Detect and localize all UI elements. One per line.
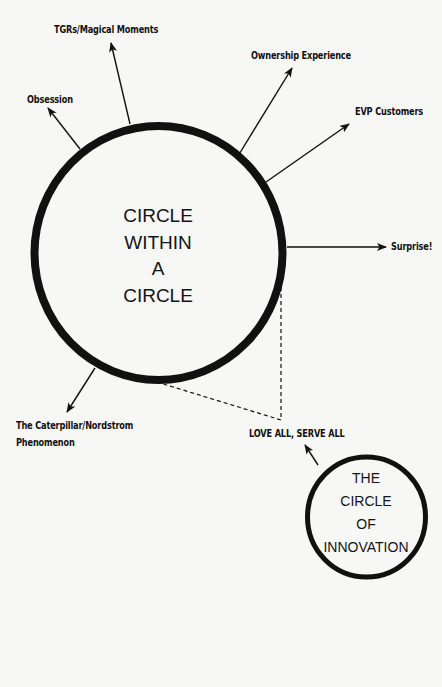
arrow-tgrs	[111, 43, 130, 124]
innovation-circle-line: THE	[306, 467, 426, 490]
label-obsession: Obsession	[27, 94, 73, 105]
arrow-evp	[266, 124, 349, 182]
label-evp-customers: EVP Customers	[355, 106, 423, 117]
arrow-ownership	[238, 68, 292, 156]
main-circle-line: WITHIN	[98, 230, 218, 257]
label-caterpillar-line2: Phenomenon	[16, 437, 75, 448]
innovation-circle-text: THE CIRCLE OF INNOVATION	[306, 467, 426, 559]
main-circle-line: CIRCLE	[98, 203, 218, 230]
main-circle-text: CIRCLE WITHIN A CIRCLE	[98, 203, 218, 309]
main-circle-line: CIRCLE	[98, 283, 218, 310]
arrow-love-all	[305, 445, 318, 465]
main-circle-line: A	[98, 256, 218, 283]
arrow-caterpillar	[67, 368, 95, 412]
label-ownership-experience: Ownership Experience	[251, 50, 351, 61]
innovation-circle-line: INNOVATION	[306, 536, 426, 559]
label-caterpillar-line1: The Caterpillar/Nordstrom	[16, 420, 133, 431]
arrow-obsession	[48, 108, 80, 149]
label-love-all-serve-all: LOVE ALL, SERVE ALL	[249, 428, 345, 439]
innovation-circle-line: CIRCLE	[306, 490, 426, 513]
label-surprise: Surprise!	[391, 241, 432, 252]
label-tgrs-magical-moments: TGRs/Magical Moments	[54, 24, 158, 35]
innovation-circle-line: OF	[306, 513, 426, 536]
